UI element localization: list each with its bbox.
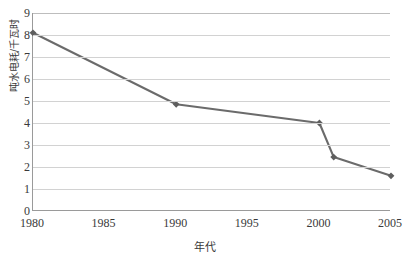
x-axis-tick-label: 2005 xyxy=(368,216,409,230)
gridline xyxy=(33,189,390,190)
gridline xyxy=(33,145,390,146)
x-axis-tick-label: 1985 xyxy=(82,216,126,230)
gridline xyxy=(33,13,390,14)
series-polyline xyxy=(33,33,391,176)
y-axis-tick-label: 9 xyxy=(8,7,30,19)
gridline xyxy=(33,57,390,58)
plot-area xyxy=(32,13,390,211)
gridline xyxy=(33,101,390,102)
x-axis-tick-label: 1995 xyxy=(225,216,269,230)
y-axis-tick-label: 4 xyxy=(8,117,30,129)
line-chart: 吨水电耗/千瓦时 9876543210 19801985199019952000… xyxy=(0,0,409,262)
data-point-marker xyxy=(330,154,337,161)
series-markers xyxy=(30,29,395,179)
x-axis-tick-label: 2000 xyxy=(296,216,340,230)
x-axis-tick-label: 1990 xyxy=(153,216,197,230)
y-axis-tick-label: 8 xyxy=(8,29,30,41)
gridline xyxy=(33,79,390,80)
series-line-electricity-consumption xyxy=(33,13,391,211)
gridline xyxy=(33,167,390,168)
y-axis-tick-label: 3 xyxy=(8,139,30,151)
y-axis-tick-label: 5 xyxy=(8,95,30,107)
y-axis-tick-label: 1 xyxy=(8,183,30,195)
x-axis-tick-label: 1980 xyxy=(10,216,54,230)
gridline xyxy=(33,123,390,124)
y-axis-tick-label: 6 xyxy=(8,73,30,85)
x-axis-tick-labels: 198019851990199520002005 xyxy=(0,216,409,234)
y-axis-tick-label: 2 xyxy=(8,161,30,173)
y-axis-tick-label: 7 xyxy=(8,51,30,63)
data-point-marker xyxy=(388,172,395,179)
gridline xyxy=(33,35,390,36)
x-axis-title: 年代 xyxy=(0,238,409,254)
